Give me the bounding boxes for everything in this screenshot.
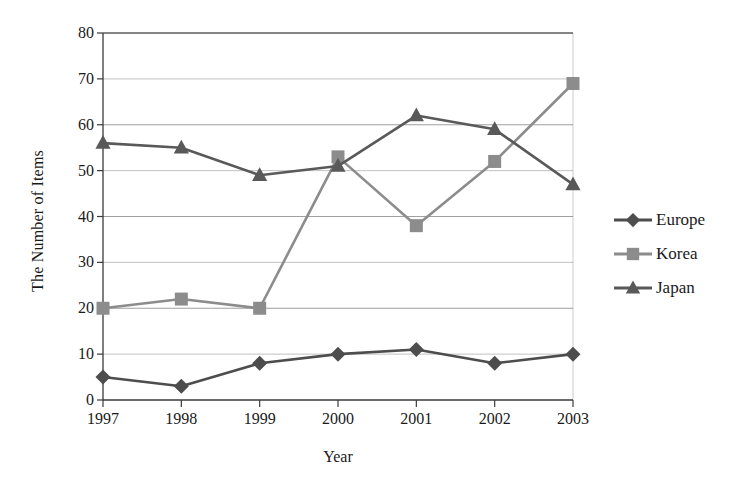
marker-diamond [487, 356, 502, 371]
legend-swatch-triangle [612, 278, 654, 298]
marker-diamond [626, 213, 640, 227]
series-line [103, 83, 573, 308]
marker-triangle [95, 135, 110, 149]
marker-diamond [331, 347, 346, 362]
x-tick-label: 2002 [460, 410, 530, 428]
legend: EuropeKoreaJapan [612, 203, 742, 305]
marker-square [97, 302, 110, 315]
gridlines [103, 33, 573, 400]
line-chart: The Number of Items 01020304050607080 19… [0, 0, 744, 482]
legend-swatch-diamond [612, 210, 654, 230]
marker-triangle [409, 108, 424, 122]
x-tick-label: 1997 [68, 410, 138, 428]
marker-diamond [409, 342, 424, 357]
x-tick-label: 1998 [146, 410, 216, 428]
legend-label: Japan [654, 278, 695, 298]
legend-label: Korea [654, 244, 698, 264]
series-line [103, 116, 573, 185]
marker-square [253, 302, 266, 315]
marker-diamond [174, 379, 189, 394]
x-axis-title: Year [103, 448, 573, 466]
x-tick-label: 2000 [303, 410, 373, 428]
legend-item-korea[interactable]: Korea [612, 237, 742, 271]
series-europe [96, 342, 581, 394]
legend-item-japan[interactable]: Japan [612, 271, 742, 305]
marker-triangle [565, 176, 580, 190]
marker-diamond [96, 370, 111, 385]
x-tick-label: 2001 [381, 410, 451, 428]
x-tick-label: 2003 [538, 410, 608, 428]
marker-square [175, 293, 188, 306]
marker-square [627, 248, 639, 260]
series-korea [97, 77, 580, 315]
marker-diamond [566, 347, 581, 362]
marker-square [488, 155, 501, 168]
legend-item-europe[interactable]: Europe [612, 203, 742, 237]
marker-square [410, 219, 423, 232]
marker-square [567, 77, 580, 90]
marker-diamond [252, 356, 267, 371]
legend-swatch-square [612, 244, 654, 264]
legend-label: Europe [654, 210, 705, 230]
x-tick-label: 1999 [225, 410, 295, 428]
